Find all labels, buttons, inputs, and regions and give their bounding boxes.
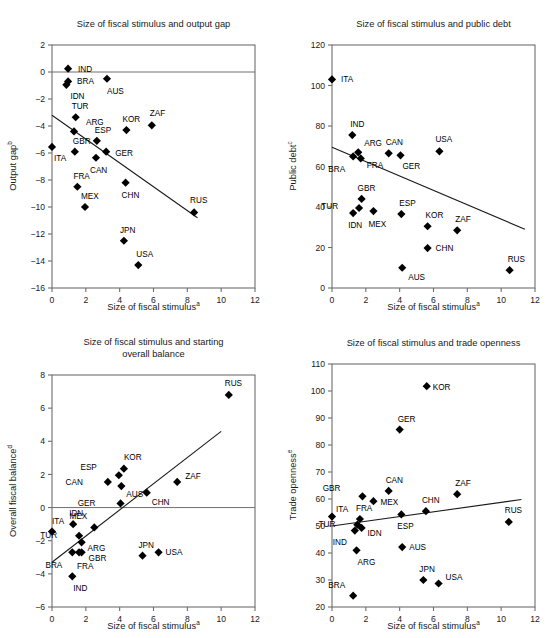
data-point-marker-gbr [71, 148, 79, 156]
data-point-marker-can [92, 154, 100, 162]
data-point-label-idn: IDN [348, 221, 362, 230]
data-point-label-fra: FRA [77, 562, 94, 571]
plot-frame [52, 375, 255, 607]
data-point-label-can: CAN [66, 478, 83, 487]
data-point-label-esp: ESP [397, 522, 414, 531]
data-point-marker-mex [81, 203, 89, 211]
data-point-label-ind: IND [78, 65, 92, 74]
data-point-label-arg: ARG [358, 558, 376, 567]
scatter-plot-public-debt: Size of fiscal stimulus and public debt0… [280, 0, 559, 319]
chart-title: Size of fiscal stimulus and output gap [77, 19, 231, 29]
data-point-label-fra: FRA [367, 161, 384, 170]
data-point-marker-esp [397, 210, 405, 218]
data-point-marker-kor [423, 222, 431, 230]
data-point-marker-zaf [148, 121, 156, 129]
data-point-label-esp: ESP [399, 199, 416, 208]
scatter-plot-trade-openness: Size of fiscal stimulus and trade openne… [280, 319, 559, 638]
data-point-label-aus: AUS [107, 87, 124, 96]
x-axis-label: Size of fiscal stimulusa [107, 300, 200, 312]
x-tick-label: 0 [50, 614, 55, 624]
data-point-marker-esp [115, 471, 123, 479]
data-point-marker-ita [328, 75, 336, 83]
data-point-label-tur: TUR [321, 202, 338, 211]
data-point-marker-ind [68, 572, 76, 580]
data-point-label-rus: RUS [190, 196, 208, 205]
chart-title: Size of fiscal stimulus and trade openne… [347, 338, 521, 348]
data-point-label-rus: RUS [225, 379, 243, 388]
data-point-label-ger: GER [115, 149, 133, 158]
data-point-label-ger: GER [78, 499, 96, 508]
data-point-label-zaf: ZAF [185, 472, 200, 481]
y-tick-label: 80 [315, 440, 325, 450]
data-point-marker-kor [120, 465, 128, 473]
y-tick-label: 0 [40, 67, 45, 77]
y-tick-label: 60 [315, 494, 325, 504]
x-tick-label: 2 [83, 614, 88, 624]
data-point-label-tur: TUR [319, 520, 336, 529]
figure-panel-grid: Size of fiscal stimulus and output gap20… [0, 0, 559, 638]
data-point-marker-rus [506, 266, 514, 274]
data-point-marker-jpn [138, 552, 146, 560]
data-point-label-can: CAN [386, 476, 403, 485]
data-point-label-bra: BRA [77, 77, 94, 86]
data-point-marker-usa [134, 261, 142, 269]
data-point-label-arg: ARG [364, 139, 382, 148]
y-tick-label: 90 [315, 413, 325, 423]
data-point-label-usa: USA [435, 135, 452, 144]
y-axis-label: Overall fiscal balanced [6, 445, 18, 537]
data-point-label-chn: CHN [152, 498, 170, 507]
y-tick-label: 100 [311, 386, 326, 396]
data-point-label-ger: GER [403, 162, 421, 171]
data-point-marker-chn [121, 179, 129, 187]
data-point-label-ind: IND [333, 538, 347, 547]
data-point-marker-arg [352, 546, 360, 554]
data-point-marker-jpn [120, 237, 128, 245]
data-point-label-bra: BRA [328, 165, 345, 174]
data-point-label-kor: KOR [426, 211, 444, 220]
x-tick-label: 12 [530, 295, 540, 305]
y-tick-label: 110 [311, 359, 325, 369]
chart-title-line2: overall balance [122, 349, 185, 359]
data-point-label-can: CAN [386, 138, 403, 147]
data-point-label-zaf: ZAF [150, 109, 165, 118]
data-point-marker-rus [505, 518, 513, 526]
y-tick-label: 20 [315, 243, 325, 253]
data-point-marker-usa [435, 147, 443, 155]
data-point-label-chn: CHN [422, 496, 440, 505]
data-point-label-idn: IDN [70, 92, 84, 101]
y-tick-label: −4 [35, 121, 45, 131]
data-point-marker-fra [73, 183, 81, 191]
y-tick-label: 80 [315, 121, 325, 131]
data-point-marker-can [385, 149, 393, 157]
data-point-label-tur: TUR [72, 102, 89, 111]
data-point-marker-gbr [358, 492, 366, 500]
data-point-label-can: CAN [90, 166, 107, 175]
data-point-label-usa: USA [166, 548, 183, 557]
plot-frame [332, 45, 535, 288]
data-point-marker-chn [423, 244, 431, 252]
data-point-marker-gbr [358, 195, 366, 203]
data-point-marker-ger [396, 426, 404, 434]
y-axis-label: Public debtc [286, 141, 298, 191]
data-point-marker-kor [122, 126, 130, 134]
scatter-plot-overall-balance: Size of fiscal stimulus and startingover… [0, 319, 279, 638]
y-tick-label: 60 [315, 162, 325, 172]
scatter-plot-output-gap: Size of fiscal stimulus and output gap20… [0, 0, 279, 319]
y-axis-label: Output gapb [6, 141, 18, 191]
data-point-label-zaf: ZAF [455, 215, 470, 224]
data-point-label-ind: IND [350, 120, 364, 129]
y-tick-label: −10 [30, 202, 45, 212]
data-point-label-usa: USA [446, 573, 463, 582]
data-point-label-aus: AUS [126, 490, 143, 499]
x-tick-label: 10 [496, 295, 506, 305]
chart-title-line1: Size of fiscal stimulus and starting [83, 337, 223, 347]
y-tick-label: −6 [35, 148, 45, 158]
x-tick-label: 10 [216, 295, 226, 305]
data-point-label-gbr: GBR [358, 184, 376, 193]
data-point-marker-idn [349, 209, 357, 217]
data-point-label-ita: ITA [52, 517, 65, 526]
x-tick-label: 12 [250, 614, 260, 624]
data-point-label-esp: ESP [80, 463, 97, 472]
data-point-label-tur: TUR [40, 531, 57, 540]
data-point-label-ind: IND [73, 584, 87, 593]
